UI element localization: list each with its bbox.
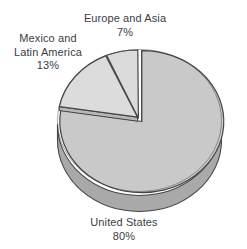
slice-label-mexico-and-latin-america: Mexico and Latin America 13% (2, 32, 94, 73)
slice-label-mexico-line1: Mexico and (2, 32, 94, 46)
pie-chart: Europe and Asia 7% Mexico and Latin Amer… (0, 0, 247, 249)
slice-label-united-states: United States 80% (66, 216, 182, 243)
slice-label-mexico-percent: 13% (2, 59, 94, 73)
slice-label-mexico-line2: Latin America (2, 46, 94, 60)
slice-label-europe-name: Europe and Asia (69, 12, 181, 26)
slice-label-united-states-percent: 80% (66, 230, 182, 244)
slice-label-united-states-name: United States (66, 216, 182, 230)
